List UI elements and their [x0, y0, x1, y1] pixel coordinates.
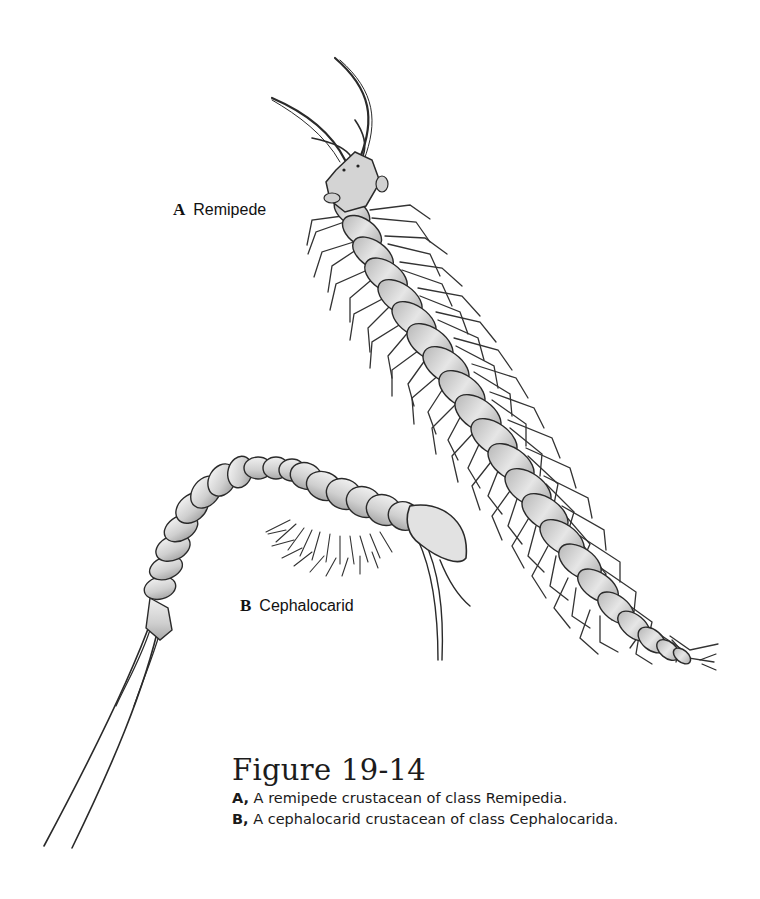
- panel-label-b: BCephalocarid: [240, 596, 354, 616]
- panel-name-a: Remipede: [193, 201, 266, 218]
- caption-text-a: A remipede crustacean of class Remipedia…: [249, 790, 567, 806]
- caption-line-b: B, A cephalocarid crustacean of class Ce…: [232, 809, 752, 830]
- figure-caption: Figure 19-14 A, A remipede crustacean of…: [232, 752, 752, 830]
- caption-key-b: B,: [232, 811, 249, 827]
- figure-number: Figure 19-14: [232, 752, 752, 788]
- caption-text-b: A cephalocarid crustacean of class Cepha…: [249, 811, 619, 827]
- caption-line-a: A, A remipede crustacean of class Remipe…: [232, 788, 752, 809]
- remipede-drawing: [272, 58, 718, 670]
- panel-letter-b: B: [240, 596, 251, 615]
- panel-name-b: Cephalocarid: [259, 597, 353, 614]
- panel-label-a: ARemipede: [173, 200, 266, 220]
- caption-key-a: A,: [232, 790, 249, 806]
- panel-letter-a: A: [173, 200, 185, 219]
